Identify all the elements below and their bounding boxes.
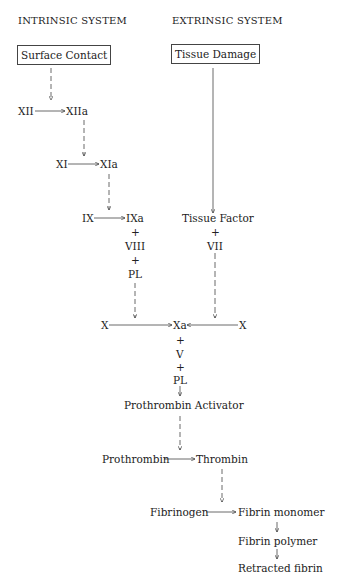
prothrombin-activator: Prothrombin Activator <box>124 399 244 411</box>
plus-sign: + <box>176 334 185 346</box>
phospholipid-pl: PL <box>128 268 142 280</box>
factor-vii: VII <box>207 240 223 252</box>
plus-sign: + <box>211 226 220 238</box>
plus-sign: + <box>131 226 140 238</box>
factor-ix: IX <box>82 212 94 224</box>
factor-xa: Xa <box>173 319 187 331</box>
factor-viii: VIII <box>125 240 145 252</box>
plus-sign: + <box>131 254 140 266</box>
surface-contact-box: Surface Contact <box>17 45 111 65</box>
fibrin-monomer: Fibrin monomer <box>238 506 324 518</box>
factor-ixa: IXa <box>126 212 144 224</box>
retracted-fibrin: Retracted fibrin <box>238 562 323 574</box>
factor-xiia: XIIa <box>66 105 88 117</box>
coagulation-cascade-diagram: INTRINSIC SYSTEM EXTRINSIC SYSTEM Surfac… <box>0 0 338 582</box>
tissue-damage-box: Tissue Damage <box>171 44 260 64</box>
factor-xi: XI <box>56 158 68 170</box>
tissue-factor: Tissue Factor <box>182 212 254 224</box>
factor-x-right: X <box>239 319 246 331</box>
fibrinogen: Fibrinogen <box>150 506 209 518</box>
fibrin-polymer: Fibrin polymer <box>238 535 317 547</box>
connector-lines <box>0 0 338 582</box>
intrinsic-system-heading: INTRINSIC SYSTEM <box>18 15 127 27</box>
prothrombin: Prothrombin <box>102 453 170 465</box>
factor-xii: XII <box>18 105 34 117</box>
factor-v: V <box>176 348 184 360</box>
factor-xia: XIa <box>100 158 118 170</box>
plus-sign: + <box>176 361 185 373</box>
extrinsic-system-heading: EXTRINSIC SYSTEM <box>172 15 283 27</box>
factor-x-left: X <box>101 319 108 331</box>
phospholipid-pl: PL <box>173 374 187 386</box>
thrombin: Thrombin <box>196 453 248 465</box>
